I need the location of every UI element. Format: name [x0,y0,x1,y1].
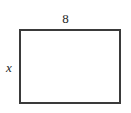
top-side-length-label: 8 [0,12,131,25]
left-side-length-label: x [0,61,18,74]
rectangle-shape [19,29,121,104]
geometry-figure: 8 x [0,0,131,113]
